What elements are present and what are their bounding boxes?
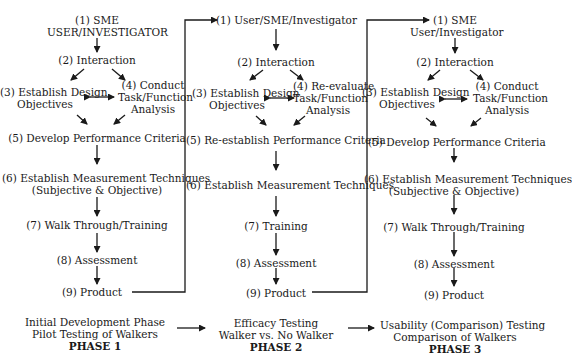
step-4-line2: Task/Function xyxy=(118,91,188,103)
step-5-performance-criteria: (5) Re-establish Performance Criteria xyxy=(186,134,366,146)
step-2-interaction: (2) Interaction xyxy=(405,56,505,68)
phase2-subtitle: Walker vs. No Walker xyxy=(211,329,341,341)
step-6-measurement: (6) Establish Measurement Techniques (Su… xyxy=(364,173,544,197)
step-3-line2: Objectives xyxy=(192,99,282,111)
step-3-line2: Objectives xyxy=(362,98,452,110)
step-4-line2: Task/Function xyxy=(473,92,541,104)
step-4-line2: Task/Function xyxy=(293,92,363,104)
step-1-user: (1) SME User/Investigator xyxy=(410,14,500,38)
step-6-line1: (6) Establish Measurement Techniques xyxy=(2,172,192,184)
step-3-design-objectives: (3) Establish Design Objectives xyxy=(362,86,452,110)
phase3-footer: Usability (Comparison) Testing Compariso… xyxy=(380,319,530,355)
phase2-label: PHASE 2 xyxy=(211,341,341,353)
step-3-line1: (3) Establish Design xyxy=(0,86,90,98)
step-1-line1: (1) SME xyxy=(410,14,500,26)
step-6-measurement: (6) Establish Measurement Techniques (Su… xyxy=(2,172,192,196)
step-4-line1: (4) Re-evaluate xyxy=(293,80,363,92)
step-8-assessment: (8) Assessment xyxy=(404,258,504,270)
step-2-interaction: (2) Interaction xyxy=(47,54,147,66)
step-9-product: (9) Product xyxy=(236,287,316,299)
step-3-line1: (3) Establish Design xyxy=(362,86,452,98)
step-3-line2: Objectives xyxy=(0,98,90,110)
step-5-performance-criteria: (5) Develop Performance Criteria xyxy=(368,136,540,148)
phase3-label: PHASE 3 xyxy=(380,343,530,355)
step-4-line3: Analysis xyxy=(473,104,541,116)
step-1-line1: (1) SME xyxy=(47,14,147,26)
step-1-line2: USER/INVESTIGATOR xyxy=(47,26,147,38)
phase2-title: Efficacy Testing xyxy=(211,317,341,329)
step-3-design-objectives: (3) Establish Design Objectives xyxy=(192,87,282,111)
step-6-measurement: (6) Establish Measurement Techniques xyxy=(186,179,366,191)
step-7-training: (7) Walk Through/Training xyxy=(374,221,534,233)
step-8-assessment: (8) Assessment xyxy=(226,257,326,269)
step-4-task-analysis: (4) Conduct Task/Function Analysis xyxy=(118,79,188,115)
step-1-user: (1) User/SME/Investigator xyxy=(216,14,336,26)
step-4-line1: (4) Conduct xyxy=(118,79,188,91)
step-4-task-analysis: (4) Re-evaluate Task/Function Analysis xyxy=(293,80,363,116)
step-1-line2: User/Investigator xyxy=(410,26,500,38)
phase3-subtitle: Comparison of Walkers xyxy=(380,331,530,343)
step-6-line2: (Subjective & Objective) xyxy=(364,185,544,197)
phase1-label: PHASE 1 xyxy=(20,340,170,352)
step-5-performance-criteria: (5) Develop Performance Criteria xyxy=(7,132,187,144)
step-7-training: (7) Training xyxy=(236,220,316,232)
step-6-line1: (6) Establish Measurement Techniques xyxy=(364,173,544,185)
phase1-title: Initial Development Phase xyxy=(20,316,170,328)
step-6-line2: (Subjective & Objective) xyxy=(2,184,192,196)
step-1-user: (1) SME USER/INVESTIGATOR xyxy=(47,14,147,38)
step-3-line1: (3) Establish Design xyxy=(192,87,282,99)
step-9-product: (9) Product xyxy=(414,289,494,301)
step-4-line3: Analysis xyxy=(293,104,363,116)
step-3-design-objectives: (3) Establish Design Objectives xyxy=(0,86,90,110)
step-7-training: (7) Walk Through/Training xyxy=(17,219,177,231)
step-2-interaction: (2) Interaction xyxy=(226,56,326,68)
step-4-task-analysis: (4) Conduct Task/Function Analysis xyxy=(473,80,541,116)
phase1-subtitle: Pilot Testing of Walkers xyxy=(20,328,170,340)
step-4-line1: (4) Conduct xyxy=(473,80,541,92)
phase3-title: Usability (Comparison) Testing xyxy=(380,319,530,331)
phase2-footer: Efficacy Testing Walker vs. No Walker PH… xyxy=(211,317,341,353)
phase1-footer: Initial Development Phase Pilot Testing … xyxy=(20,316,170,352)
step-4-line3: Analysis xyxy=(118,103,188,115)
step-8-assessment: (8) Assessment xyxy=(47,254,147,266)
step-9-product: (9) Product xyxy=(52,286,132,298)
